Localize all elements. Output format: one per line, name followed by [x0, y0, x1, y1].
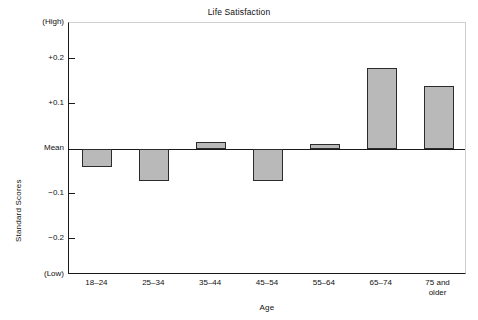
x-axis-tick-label-line: older	[409, 288, 466, 298]
y-axis-tick-marks	[69, 22, 77, 274]
x-axis-tick-label: 45–54	[239, 278, 296, 288]
bar	[196, 142, 226, 149]
x-axis-tick-label: 18–24	[68, 278, 125, 288]
y-axis-tick-label: +0.2	[4, 54, 64, 62]
x-axis-tick-label: 75 andolder	[409, 278, 466, 298]
y-axis-tick-label: −0.2	[4, 234, 64, 242]
bar	[367, 68, 397, 149]
y-axis-tick-label: −0.1	[4, 189, 64, 197]
x-axis-tick-label-line: 65–74	[352, 278, 409, 288]
bar	[424, 86, 454, 149]
y-axis-tick-labels: (High)+0.2+0.1Mean−0.1−0.2(Low)	[0, 22, 64, 274]
x-axis-tick-label: 55–64	[295, 278, 352, 288]
y-axis-tick-label: +0.1	[4, 99, 64, 107]
y-axis-tick-mark	[69, 103, 75, 104]
x-axis-tick-label-line: 45–54	[239, 278, 296, 288]
x-axis-tick-label-line: 25–34	[125, 278, 182, 288]
x-axis-tick-label-line: 75 and	[409, 278, 466, 288]
bar	[310, 144, 340, 149]
bar	[253, 149, 283, 181]
plot-area	[69, 23, 465, 273]
bar	[82, 149, 112, 167]
x-axis-title: Age	[68, 303, 466, 312]
x-axis-tick-label-line: 55–64	[295, 278, 352, 288]
bar	[139, 149, 169, 181]
y-axis-tick-label: (High)	[4, 18, 64, 26]
y-axis-tick-mark	[69, 193, 75, 194]
y-axis-tick-mark	[69, 238, 75, 239]
x-axis-tick-label: 25–34	[125, 278, 182, 288]
y-axis-tick-label: (Low)	[4, 270, 64, 278]
y-axis-tick-mark	[69, 58, 75, 59]
x-axis-tick-label-line: 18–24	[68, 278, 125, 288]
x-axis-tick-label-line: 35–44	[182, 278, 239, 288]
chart-title: Life Satisfaction	[0, 7, 478, 17]
y-axis-tick-label: Mean	[4, 144, 64, 152]
x-axis-tick-label: 65–74	[352, 278, 409, 288]
x-axis-tick-label: 35–44	[182, 278, 239, 288]
chart-figure: Life Satisfaction Standard Scores (High)…	[0, 0, 478, 320]
plot-frame	[68, 22, 466, 274]
